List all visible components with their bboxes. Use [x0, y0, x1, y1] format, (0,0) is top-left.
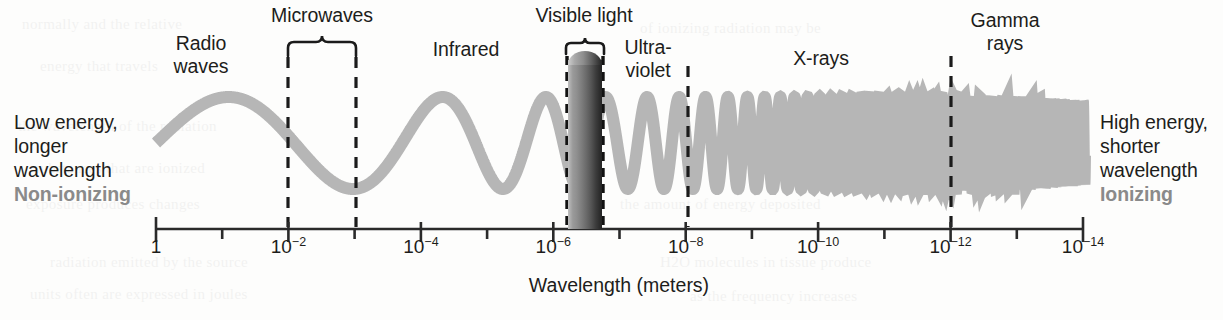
tick-label-4: 10−8 [668, 236, 703, 258]
tick-label-1: 10−2 [271, 236, 306, 258]
tick-label-5: 10−10 [797, 236, 839, 258]
visible-light-band [568, 60, 602, 229]
band-label-x-rays: X-rays [793, 47, 849, 70]
tick-label-0: 1 [151, 236, 162, 258]
band-label-ultraviolet: Ultra- violet [624, 36, 671, 82]
axis-title: Wavelength (meters) [529, 274, 709, 297]
wave-band [156, 97, 1085, 189]
high-energy-annotation: High energy, shorter wavelength [1100, 110, 1208, 182]
electromagnetic-spectrum-figure: normally and the relativeenergy that tra… [0, 0, 1223, 320]
microwaves-brace [288, 36, 356, 56]
band-label-radio-waves: Radio waves [174, 32, 229, 78]
tick-label-7: 10−14 [1062, 236, 1104, 258]
band-label-visible-light: Visible light [536, 4, 633, 27]
tick-label-3: 10−6 [536, 236, 571, 258]
non-ionizing-label: Non-ionizing [14, 183, 131, 206]
band-label-microwaves: Microwaves [271, 4, 373, 27]
band-label-gamma-rays: Gamma rays [971, 9, 1040, 55]
tick-label-6: 10−12 [929, 236, 971, 258]
tick-label-2: 10−4 [403, 236, 438, 258]
low-energy-annotation: Low energy, longer wavelength [14, 110, 118, 182]
band-label-infrared: Infrared [433, 38, 499, 61]
ionizing-label: Ionizing [1100, 183, 1173, 206]
